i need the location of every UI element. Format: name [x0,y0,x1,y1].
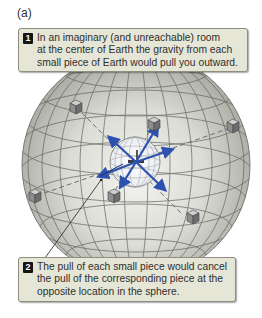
callout-line: small piece of Earth would pull you outw… [37,57,245,69]
callout-number-badge: 1 [23,33,33,44]
callout-text: In an imaginary (and unreachable) room a… [37,32,245,69]
callout-line: In an imaginary (and unreachable) room [37,32,245,44]
callout-text: The pull of each small piece would cance… [37,261,233,298]
cube-top-center [148,117,160,131]
callout-line: the pull of the corresponding piece at t… [37,273,233,285]
cube-right [227,119,239,133]
callout-2: 2 The pull of each small piece would can… [18,257,236,302]
cube-left [29,189,41,203]
callout-number-badge: 2 [23,262,33,273]
callout-line: The pull of each small piece would cance… [37,261,233,273]
cube-bottom-center [108,189,120,203]
callout-1: 1 In an imaginary (and unreachable) room… [18,28,248,72]
callout-line: at the center of Earth the gravity from … [37,44,245,56]
cube-bottom-right [187,210,199,224]
cube-top-left [70,100,82,114]
callout-line: opposite location in the sphere. [37,286,233,298]
